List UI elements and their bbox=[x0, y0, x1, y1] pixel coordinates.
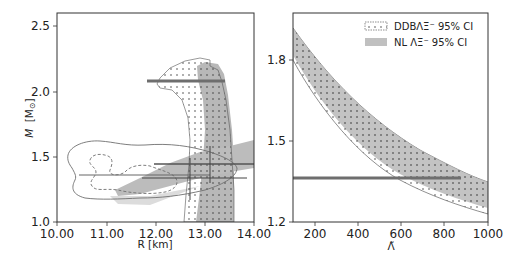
ytick-2.5: 2.5 bbox=[31, 19, 50, 33]
xtick-200: 200 bbox=[304, 227, 327, 241]
left-panel bbox=[68, 58, 254, 222]
legend-swatch-ddb bbox=[365, 22, 387, 30]
ytick-2.0: 2.0 bbox=[31, 85, 50, 99]
xtick-800: 800 bbox=[433, 227, 456, 241]
ytick-1.5: 1.5 bbox=[31, 150, 50, 164]
xtick-600: 600 bbox=[390, 227, 413, 241]
ytick-1.5: 1.5 bbox=[267, 134, 286, 148]
legend: DDBΛΞ⁻ 95% CI NL ΛΞ⁻ 95% CI bbox=[358, 16, 486, 52]
right-yticks-labels: 1.8 1.5 1.2 bbox=[267, 53, 286, 229]
nl-band-right-dots bbox=[293, 28, 488, 208]
right-panel bbox=[293, 28, 488, 214]
left-xlabel: R [km] bbox=[137, 238, 172, 250]
xtick-1000: 1000 bbox=[473, 227, 504, 241]
ytick-1.2: 1.2 bbox=[267, 215, 286, 229]
ytick-1.8: 1.8 bbox=[267, 53, 286, 67]
xtick-14: 14.00 bbox=[237, 227, 271, 241]
left-yticks-labels: 2.5 2.0 1.5 1.0 bbox=[31, 19, 50, 229]
left-ylabel: M [M⊙] bbox=[23, 98, 37, 137]
xtick-10: 10.00 bbox=[40, 227, 74, 241]
xtick-13: 13.00 bbox=[188, 227, 222, 241]
svg-text:M [M⊙]: M [M⊙] bbox=[23, 98, 37, 137]
legend-label-nl: NL ΛΞ⁻ 95% CI bbox=[394, 37, 467, 48]
xtick-11: 11.00 bbox=[90, 227, 124, 241]
legend-swatch-nl bbox=[365, 38, 387, 46]
figure: 2.5 2.0 1.5 1.0 10.00 11.00 12.00 13.00 … bbox=[0, 0, 522, 263]
legend-label-ddb: DDBΛΞ⁻ 95% CI bbox=[394, 21, 473, 32]
right-xlabel: Λ̃ bbox=[387, 240, 395, 252]
xtick-400: 400 bbox=[347, 227, 370, 241]
right-xticks-labels: 200 400 600 800 1000 bbox=[304, 227, 504, 241]
